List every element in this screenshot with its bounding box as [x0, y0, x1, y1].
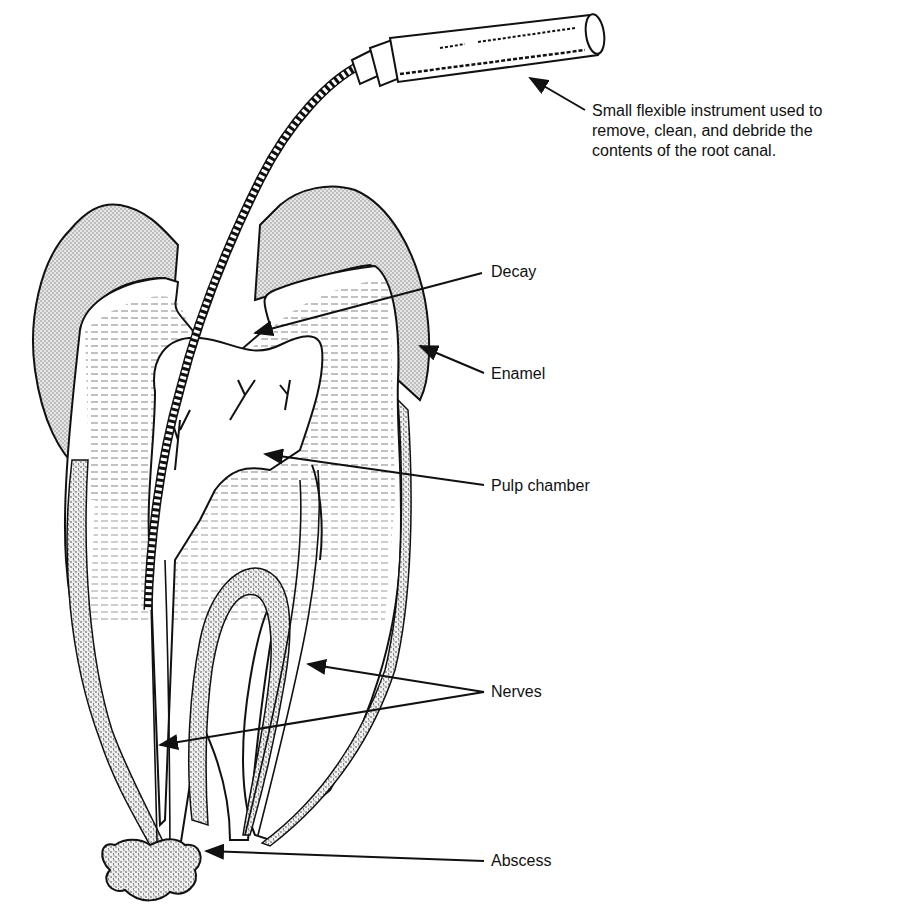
label-enamel: Enamel [491, 364, 545, 384]
label-abscess: Abscess [491, 851, 551, 871]
abscess-region [102, 839, 200, 900]
label-nerves: Nerves [491, 682, 542, 702]
label-instrument-line-3: contents of the root canal. [592, 141, 898, 161]
label-instrument-line-2: remove, clean, and debride the [592, 121, 898, 141]
label-instrument-line-1: Small flexible instrument used to [592, 101, 898, 121]
label-decay: Decay [491, 262, 536, 282]
label-pulp-chamber: Pulp chamber [491, 476, 590, 496]
label-instrument: Small flexible instrument used to remove… [592, 101, 898, 161]
